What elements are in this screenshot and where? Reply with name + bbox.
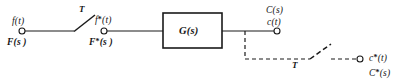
input-terminal-circle [19, 28, 25, 34]
sampled-data-control-system-diagram: f(t) F(s ) T f*(t) F*(s ) G(s) C(s) c(t)… [0, 0, 411, 84]
output-time-label: c(t) [267, 18, 281, 28]
sampled-input-laplace-label: F*(s ) [89, 38, 113, 48]
diagram-canvas [0, 0, 411, 84]
input-sampler-switch-blade[interactable] [74, 15, 95, 32]
input-laplace-label: F(s ) [7, 38, 27, 48]
input-time-label: f(t) [12, 17, 24, 27]
output-feed-dashed-wire [245, 31, 310, 59]
sampled-output-terminal-circle [357, 56, 363, 62]
transfer-function-label: G(s) [179, 26, 198, 37]
output-sampler-switch-blade[interactable] [310, 44, 331, 59]
sampled-input-terminal-circle [101, 28, 107, 34]
sampled-input-time-rest: (t) [102, 15, 112, 25]
output-terminal-circle [274, 28, 280, 34]
sampled-output-laplace-label: C*(s) [369, 69, 390, 79]
output-sampler-period-label: T [292, 61, 298, 70]
sampled-input-laplace-rest: (s ) [100, 37, 113, 47]
sampled-output-time-label: c*(t) [369, 54, 387, 64]
sampled-output-laplace-rest: (s) [380, 68, 391, 78]
sampled-input-time-label: f*(t) [95, 16, 112, 26]
sampled-output-time-rest: (t) [378, 53, 388, 63]
output-laplace-label: C(s) [266, 6, 283, 16]
input-sampler-period-label: T [79, 5, 85, 14]
